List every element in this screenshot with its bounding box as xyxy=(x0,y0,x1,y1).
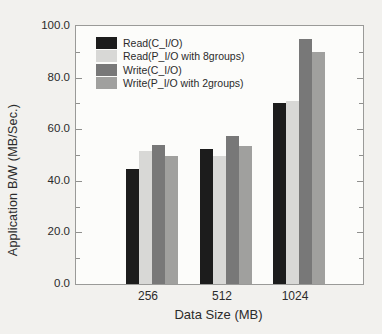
bar-512-series-1 xyxy=(213,156,226,284)
y-axis-tick xyxy=(357,232,363,233)
bar-1024-series-1 xyxy=(286,101,299,284)
y-axis-title: Application B/W (MB/Sec.) xyxy=(6,80,20,280)
x-tick-label: 1024 xyxy=(265,289,325,303)
y-axis-tick xyxy=(359,52,363,53)
y-axis-tick xyxy=(76,129,82,130)
y-axis-tick xyxy=(357,78,363,79)
y-axis-tick xyxy=(357,129,363,130)
legend-swatch-icon xyxy=(96,77,117,89)
y-axis-tick xyxy=(76,181,82,182)
bar-256-series-3 xyxy=(165,156,178,284)
bar-1024-series-3 xyxy=(312,52,325,284)
y-axis-tick xyxy=(76,103,80,104)
y-tick-label: 60.0 xyxy=(26,122,70,134)
y-axis-tick xyxy=(76,155,80,156)
y-axis-tick xyxy=(76,52,80,53)
bar-group-512 xyxy=(200,26,252,284)
bar-512-series-2 xyxy=(226,136,239,284)
bar-group-1024 xyxy=(273,26,325,284)
bar-512-series-3 xyxy=(239,146,252,284)
bar-256-series-2 xyxy=(152,145,165,284)
bar-256-series-1 xyxy=(139,151,152,284)
bar-1024-series-0 xyxy=(273,103,286,284)
y-tick-label: 20.0 xyxy=(26,225,70,237)
x-axis-title: Data Size (MB) xyxy=(75,307,362,322)
y-axis-tick xyxy=(357,181,363,182)
y-axis-tick xyxy=(359,103,363,104)
plot-area: Application B/W (MB/Sec.) Read(C_I/O)Rea… xyxy=(75,25,364,285)
y-axis-tick xyxy=(76,78,82,79)
bar-256-series-0 xyxy=(126,169,139,284)
bar-512-series-0 xyxy=(200,149,213,284)
y-axis-tick xyxy=(76,258,80,259)
bar-chart-figure: Data Size (MB) Application B/W (MB/Sec.)… xyxy=(0,0,382,334)
legend-swatch-icon xyxy=(96,37,117,49)
y-axis-tick xyxy=(76,232,82,233)
bar-1024-series-2 xyxy=(299,39,312,284)
x-tick-label: 512 xyxy=(192,289,252,303)
x-tick-label: 256 xyxy=(118,289,178,303)
y-tick-label: 0.0 xyxy=(26,277,70,289)
y-tick-label: 80.0 xyxy=(26,71,70,83)
y-axis-tick xyxy=(359,155,363,156)
bar-group-256 xyxy=(126,26,178,284)
y-axis-tick xyxy=(359,258,363,259)
y-axis-tick xyxy=(76,207,80,208)
y-axis-tick xyxy=(359,207,363,208)
y-tick-label: 100.0 xyxy=(26,19,70,31)
legend-swatch-icon xyxy=(96,64,117,76)
y-tick-label: 40.0 xyxy=(26,174,70,186)
legend-swatch-icon xyxy=(96,50,117,62)
